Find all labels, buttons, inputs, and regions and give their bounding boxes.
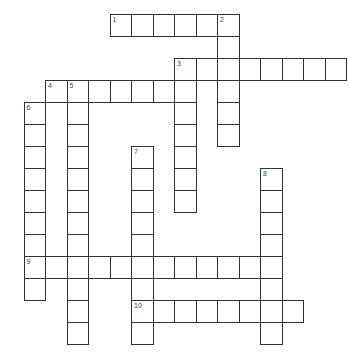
crossword-cell[interactable]	[67, 124, 90, 147]
crossword-cell[interactable]	[174, 14, 197, 37]
crossword-cell[interactable]: 5	[67, 80, 90, 103]
crossword-cell[interactable]	[67, 190, 90, 213]
crossword-cell[interactable]	[217, 256, 240, 279]
crossword-cell[interactable]	[24, 124, 47, 147]
crossword-cell[interactable]	[303, 58, 326, 81]
crossword-cell[interactable]	[67, 322, 90, 345]
crossword-cell[interactable]	[196, 58, 219, 81]
crossword-cell[interactable]: 9	[24, 256, 47, 279]
crossword-cell[interactable]	[24, 146, 47, 169]
crossword-cell[interactable]	[260, 234, 283, 257]
crossword-cell[interactable]	[131, 190, 154, 213]
crossword-cell[interactable]	[67, 168, 90, 191]
crossword-cell[interactable]	[110, 80, 133, 103]
crossword-cell[interactable]	[67, 234, 90, 257]
clue-number: 4	[48, 82, 52, 90]
crossword-cell[interactable]: 6	[24, 102, 47, 125]
crossword-cell[interactable]	[24, 234, 47, 257]
clue-number: 6	[27, 104, 31, 112]
crossword-cell[interactable]	[67, 278, 90, 301]
clue-number: 9	[27, 258, 31, 266]
crossword-cell[interactable]	[282, 58, 305, 81]
crossword-cell[interactable]	[153, 80, 176, 103]
clue-number: 1	[113, 16, 117, 24]
crossword-cell[interactable]	[239, 256, 262, 279]
crossword-cell[interactable]	[174, 190, 197, 213]
crossword-cell[interactable]	[282, 300, 305, 323]
crossword-cell[interactable]	[131, 212, 154, 235]
crossword-cell[interactable]	[217, 300, 240, 323]
crossword-cell[interactable]	[131, 234, 154, 257]
crossword-cell[interactable]	[67, 212, 90, 235]
crossword-cell[interactable]: 10	[131, 300, 154, 323]
crossword-cell[interactable]: 2	[217, 14, 240, 37]
crossword-grid: 12345697108	[0, 0, 349, 359]
crossword-cell[interactable]	[45, 256, 68, 279]
crossword-cell[interactable]	[174, 102, 197, 125]
clue-number: 5	[70, 82, 74, 90]
crossword-cell[interactable]	[67, 146, 90, 169]
crossword-cell[interactable]	[239, 58, 262, 81]
crossword-cell[interactable]	[174, 146, 197, 169]
clue-number: 7	[134, 148, 138, 156]
crossword-cell[interactable]	[131, 80, 154, 103]
crossword-cell[interactable]	[153, 14, 176, 37]
crossword-cell[interactable]	[24, 212, 47, 235]
crossword-cell[interactable]	[88, 256, 111, 279]
crossword-cell[interactable]	[196, 14, 219, 37]
crossword-cell[interactable]	[239, 300, 262, 323]
crossword-cell[interactable]	[131, 256, 154, 279]
crossword-cell[interactable]	[131, 322, 154, 345]
crossword-cell[interactable]	[325, 58, 348, 81]
crossword-cell[interactable]	[260, 322, 283, 345]
crossword-cell[interactable]	[88, 80, 111, 103]
crossword-cell[interactable]	[260, 212, 283, 235]
crossword-cell[interactable]	[217, 36, 240, 59]
crossword-cell[interactable]	[196, 300, 219, 323]
crossword-cell[interactable]	[174, 300, 197, 323]
crossword-cell[interactable]	[260, 190, 283, 213]
crossword-cell[interactable]	[153, 300, 176, 323]
crossword-cell[interactable]	[217, 58, 240, 81]
crossword-cell[interactable]: 1	[110, 14, 133, 37]
clue-number: 2	[220, 16, 224, 24]
clue-number: 8	[263, 170, 267, 178]
crossword-cell[interactable]: 3	[174, 58, 197, 81]
crossword-cell[interactable]	[217, 80, 240, 103]
crossword-cell[interactable]	[174, 256, 197, 279]
crossword-cell[interactable]	[67, 256, 90, 279]
crossword-cell[interactable]	[153, 256, 176, 279]
crossword-cell[interactable]	[217, 102, 240, 125]
crossword-cell[interactable]	[24, 190, 47, 213]
crossword-cell[interactable]	[24, 168, 47, 191]
crossword-cell[interactable]	[174, 80, 197, 103]
crossword-cell[interactable]	[174, 168, 197, 191]
crossword-cell[interactable]	[131, 278, 154, 301]
crossword-cell[interactable]	[260, 300, 283, 323]
crossword-cell[interactable]	[260, 278, 283, 301]
clue-number: 10	[134, 302, 142, 310]
crossword-cell[interactable]	[174, 124, 197, 147]
crossword-cell[interactable]	[131, 14, 154, 37]
crossword-cell[interactable]: 8	[260, 168, 283, 191]
crossword-cell[interactable]: 4	[45, 80, 68, 103]
crossword-cell[interactable]	[110, 256, 133, 279]
clue-number: 3	[177, 60, 181, 68]
crossword-cell[interactable]	[131, 168, 154, 191]
crossword-cell[interactable]	[24, 278, 47, 301]
crossword-cell[interactable]	[260, 58, 283, 81]
crossword-cell[interactable]	[196, 256, 219, 279]
crossword-cell[interactable]	[67, 300, 90, 323]
crossword-cell[interactable]: 7	[131, 146, 154, 169]
crossword-cell[interactable]	[67, 102, 90, 125]
crossword-cell[interactable]	[260, 256, 283, 279]
crossword-cell[interactable]	[217, 124, 240, 147]
